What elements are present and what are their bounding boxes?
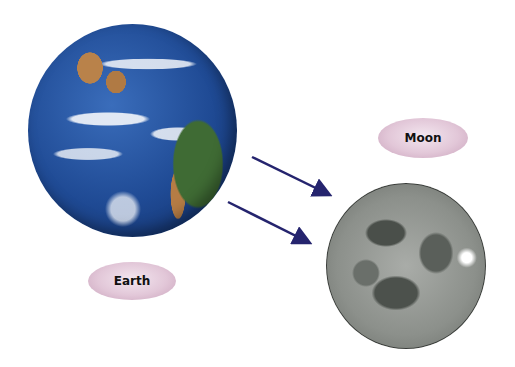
arrow-lower: [228, 202, 308, 242]
moon-label-text: Moon: [405, 131, 442, 145]
moon-image: [326, 183, 486, 349]
earth-label-text: Earth: [114, 274, 151, 288]
arrow-upper: [252, 157, 328, 194]
moon-label: Moon: [378, 118, 468, 158]
earth-label: Earth: [88, 262, 176, 300]
